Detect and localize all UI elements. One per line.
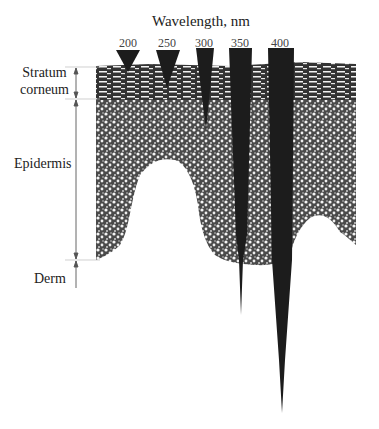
beam-400nm: [268, 48, 294, 413]
stratum-corneum-layer: [96, 62, 356, 100]
epidermis-layer: [96, 98, 356, 265]
label-epidermis: Epidermis: [14, 155, 72, 172]
dimension-arrows: [74, 68, 78, 288]
label-stratum-line2: corneum: [20, 81, 69, 98]
label-stratum-corneum: Stratum corneum: [20, 64, 69, 98]
label-derm: Derm: [34, 270, 66, 287]
label-stratum-line1: Stratum: [20, 64, 69, 81]
